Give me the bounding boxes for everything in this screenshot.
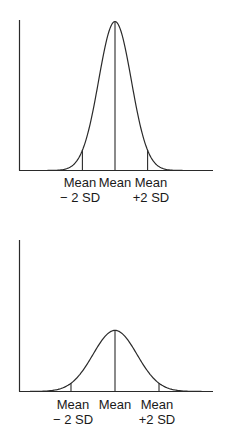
normal-curve: [30, 22, 205, 171]
chart-panel-wide: Mean − 2 SD Mean Mean +2 SD: [0, 220, 229, 438]
label-line: Mean: [127, 397, 187, 412]
plus-2sd-label: Mean +2 SD: [121, 175, 181, 205]
label-line: − 2 SD: [43, 412, 103, 427]
label-line: − 2 SD: [50, 190, 110, 205]
plus-2sd-label: Mean +2 SD: [127, 397, 187, 427]
label-line: +2 SD: [127, 412, 187, 427]
chart-panel-narrow: Mean − 2 SD Mean Mean +2 SD: [0, 0, 229, 220]
label-line: +2 SD: [121, 190, 181, 205]
normal-curve: [30, 330, 205, 391]
label-line: Mean: [121, 175, 181, 190]
